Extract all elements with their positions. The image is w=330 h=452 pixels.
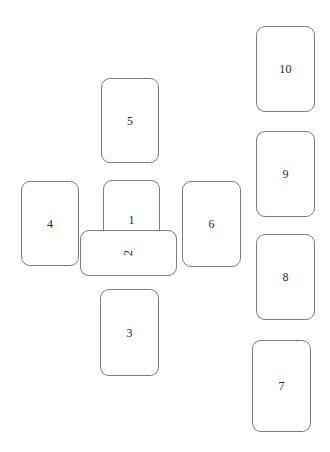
card-position-label: 2 xyxy=(122,250,134,256)
card-position-label: 6 xyxy=(208,218,214,230)
card-position-label: 3 xyxy=(126,327,132,339)
card-position-label: 8 xyxy=(282,271,288,283)
card-position-5[interactable]: 5 xyxy=(101,78,159,163)
card-position-3[interactable]: 3 xyxy=(100,289,159,376)
card-position-10[interactable]: 10 xyxy=(256,26,315,112)
card-position-8[interactable]: 8 xyxy=(256,234,315,320)
card-position-7[interactable]: 7 xyxy=(252,340,311,432)
card-position-9[interactable]: 9 xyxy=(256,131,315,217)
card-position-4[interactable]: 4 xyxy=(21,181,79,266)
card-position-label: 4 xyxy=(47,218,53,230)
card-position-label: 1 xyxy=(128,214,134,226)
card-position-6[interactable]: 6 xyxy=(182,181,241,267)
card-position-label: 10 xyxy=(279,63,291,75)
card-position-label: 5 xyxy=(127,115,133,127)
card-position-2[interactable]: 2 xyxy=(80,230,177,276)
card-position-label: 9 xyxy=(282,168,288,180)
card-spread-diagram: 12345678910 xyxy=(0,0,330,452)
card-position-label: 7 xyxy=(278,380,284,392)
